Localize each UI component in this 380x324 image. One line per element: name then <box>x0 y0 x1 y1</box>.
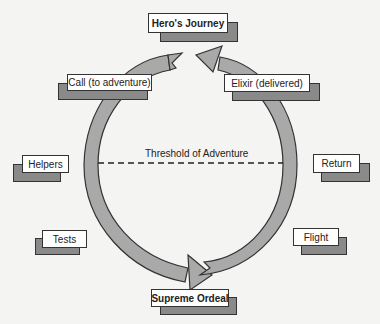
ordeal-label: Supreme Ordeal <box>151 289 229 307</box>
call-label: Call (to adventure) <box>67 74 152 91</box>
threshold-label: Threshold of Adventure <box>145 148 248 159</box>
elixir-label: Elixir (delivered) <box>224 74 310 92</box>
tests-label: Tests <box>42 230 87 248</box>
return-label: Return <box>313 154 360 173</box>
title-label: Hero's Journey <box>148 13 228 33</box>
flight-label: Flight <box>293 228 339 246</box>
helpers-label: Helpers <box>22 155 69 173</box>
